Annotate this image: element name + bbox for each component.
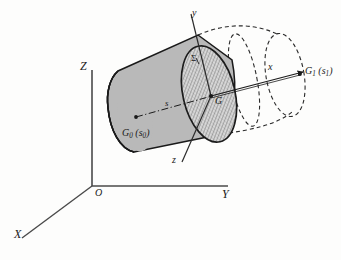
- right-centroid-label: G1 (s1): [305, 66, 333, 78]
- global-x-axis-label: X: [14, 228, 21, 240]
- local-x-axis-label: x: [268, 62, 272, 72]
- figure-drawing: [0, 0, 341, 260]
- ghost-end-ellipse: [259, 30, 311, 119]
- arc-length-label: s: [165, 99, 169, 108]
- centroid-label-G: G: [215, 96, 222, 106]
- centroid-dot-G1: [298, 72, 302, 76]
- cross-section-label: Σ: [191, 54, 196, 63]
- global-y-axis-label: Y: [222, 188, 229, 200]
- global-z-axis-label: Z: [80, 60, 87, 72]
- global-origin-label: O: [95, 188, 102, 198]
- centroid-dot-G0: [134, 115, 138, 119]
- local-y-axis-label: y: [192, 8, 196, 18]
- left-centroid-label: G0 (s0): [122, 128, 150, 140]
- centroid-dot-G: [209, 94, 213, 98]
- right-paren-close: ): [329, 65, 332, 76]
- local-z-axis-label: z: [172, 155, 176, 165]
- left-paren-close: ): [146, 127, 149, 138]
- figure-container: Z Y X O y z x Σ G s G0 (s0) G1 (s1): [0, 0, 341, 260]
- global-x-axis: [22, 186, 92, 238]
